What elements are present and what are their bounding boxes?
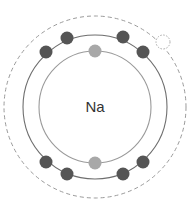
nucleus-label: Na <box>85 98 105 115</box>
inner-shell-electron <box>89 45 102 58</box>
outer-shell-electron <box>61 168 74 181</box>
outer-shell-electron <box>61 32 74 45</box>
vacancy-group <box>156 35 170 49</box>
outer-shell-electron <box>117 31 130 44</box>
outer-shell-electron <box>117 168 130 181</box>
bohr-model-diagram: Na <box>0 0 194 207</box>
outer-shell-electron <box>40 156 53 169</box>
inner-shell-electron <box>89 157 102 170</box>
outer-shell-electron <box>137 46 150 59</box>
outer-shell-electron <box>40 46 53 59</box>
outer-shell-electron <box>137 156 150 169</box>
electron-vacancy <box>156 35 170 49</box>
